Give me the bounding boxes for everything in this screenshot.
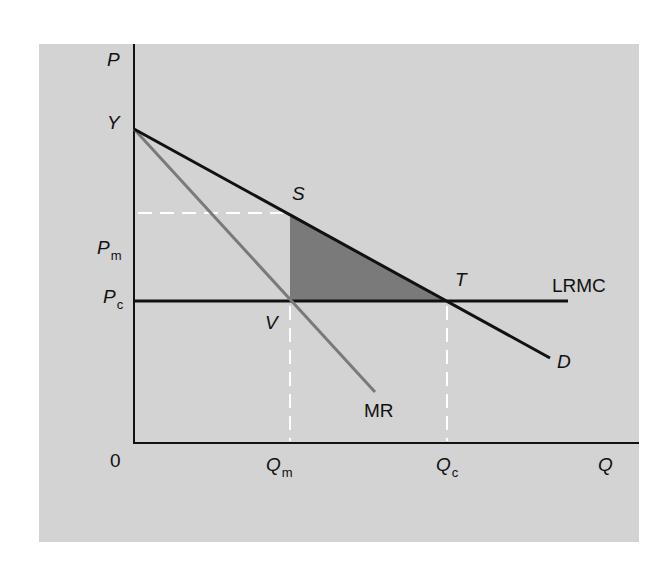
qc-label-sub: c bbox=[452, 465, 459, 480]
pm-label-main: P bbox=[97, 237, 110, 258]
pm-label: Pm bbox=[97, 238, 122, 257]
demand-curve bbox=[134, 129, 550, 358]
pc-label: Pc bbox=[103, 287, 123, 306]
point-s-label: S bbox=[292, 184, 305, 203]
point-v-label: V bbox=[265, 313, 278, 332]
pc-label-sub: c bbox=[117, 297, 124, 312]
origin-label: 0 bbox=[110, 451, 121, 470]
x-axis-label: Q bbox=[598, 455, 613, 474]
y-intercept-label: Y bbox=[107, 113, 120, 132]
pm-label-sub: m bbox=[111, 248, 122, 263]
qm-label-sub: m bbox=[282, 465, 293, 480]
qc-label: Qc bbox=[436, 455, 458, 474]
y-axis-label: P bbox=[107, 50, 120, 69]
qm-label: Qm bbox=[266, 455, 293, 474]
mr-label: MR bbox=[364, 401, 394, 420]
lrmc-label: LRMC bbox=[552, 276, 606, 295]
demand-label: D bbox=[557, 352, 571, 371]
pc-label-main: P bbox=[103, 286, 116, 307]
point-t-label: T bbox=[455, 270, 467, 289]
qm-label-main: Q bbox=[266, 454, 281, 475]
qc-label-main: Q bbox=[436, 454, 451, 475]
